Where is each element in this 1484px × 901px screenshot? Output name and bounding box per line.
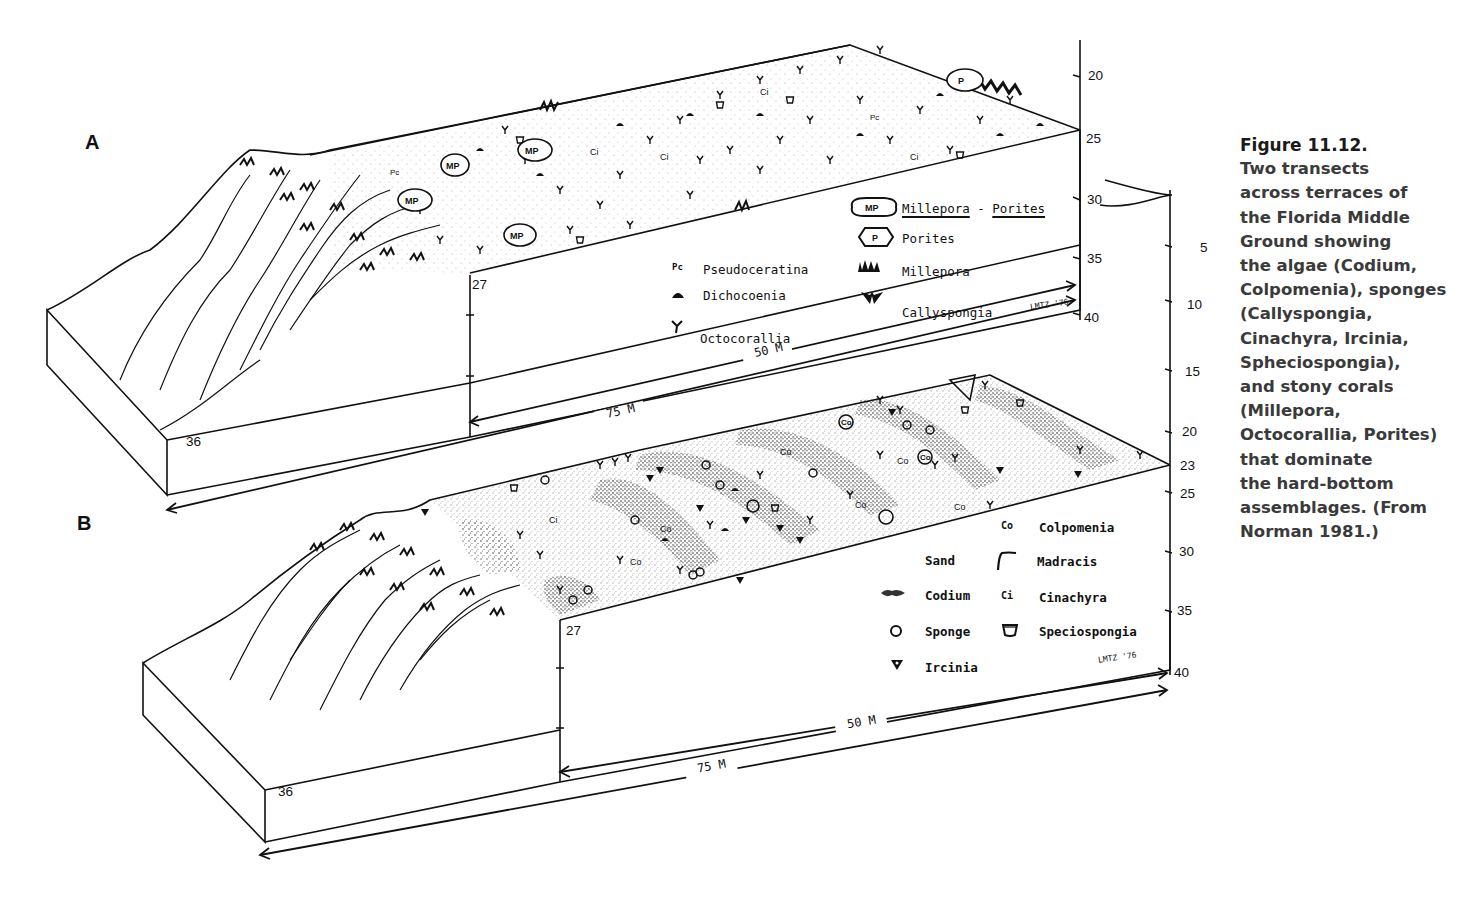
caption-line: the Florida Middle (1240, 206, 1480, 230)
panel-b-axis-5: 5 (1200, 240, 1208, 255)
caption-line: Colpomenia), sponges (1240, 278, 1480, 302)
caption-line: the hard-bottom (1240, 472, 1480, 496)
panel-a-axis-25: 25 (1086, 131, 1101, 146)
svg-text:Ci: Ci (549, 515, 558, 525)
svg-text:Co: Co (954, 502, 966, 512)
caption-line: assemblages. (From (1240, 496, 1480, 520)
panel-a-depth-27: 27 (472, 277, 487, 292)
svg-text:MP: MP (525, 146, 539, 156)
legend-sand: Sand (925, 553, 955, 568)
dichocoenia-icon (671, 290, 685, 300)
panel-a-axis-40: 40 (1084, 310, 1099, 325)
caption-line: Spheciospongia), (1240, 351, 1480, 375)
legend-porites: Porites (902, 231, 955, 246)
svg-text:P: P (872, 233, 878, 243)
svg-text:Pc: Pc (390, 168, 399, 177)
panel-a-axis-35: 35 (1087, 251, 1102, 266)
legend-speciospongia: Speciospongia (1039, 624, 1137, 639)
legend-separator: - (970, 201, 993, 216)
sponge-icon (889, 624, 903, 638)
colpomenia-symbol: Co (1001, 520, 1013, 531)
svg-text:MP: MP (446, 161, 460, 171)
legend-colpomenia: Colpomenia (1039, 520, 1114, 535)
caption-line: Octocorallia, Porites) (1240, 423, 1480, 447)
panel-b-axis-30: 30 (1179, 544, 1194, 559)
legend-madracis: Madracis (1037, 554, 1097, 569)
panel-b-axis-35: 35 (1177, 603, 1192, 618)
legend-millepora-porites: Millepora - Porites (902, 201, 1045, 216)
panel-b-axis-15: 15 (1185, 364, 1200, 379)
caption-line: (Callyspongia, (1240, 302, 1480, 326)
legend-dichocoenia: Dichocoenia (703, 288, 786, 303)
octocorallia-icon (670, 320, 684, 334)
panel-b-surface (430, 375, 1170, 620)
legend-octocorallia: Octocorallia (700, 331, 790, 346)
svg-text:Co: Co (855, 500, 867, 510)
speciospongia-icon (1001, 622, 1019, 638)
panel-b-depth-27: 27 (566, 623, 581, 638)
caption-title: Figure 11.12. (1240, 133, 1480, 157)
millepora-porites-icon: MP (848, 195, 900, 219)
panel-a-letter: A (85, 131, 99, 154)
caption-line: the algae (Codium, (1240, 254, 1480, 278)
panel-b-axis-10: 10 (1187, 297, 1202, 312)
madracis-icon (996, 549, 1018, 571)
svg-text:Ci: Ci (590, 147, 599, 157)
svg-text:Co: Co (841, 418, 852, 427)
svg-text:MP: MP (865, 203, 879, 213)
legend-cinachyra: Cinachyra (1039, 590, 1107, 605)
figure-stage: CiCi CiCi PcPc MP MP MP MP P (0, 0, 1484, 901)
cinachyra-symbol: Ci (1001, 590, 1013, 601)
caption-line: Norman 1981.) (1240, 520, 1480, 544)
legend-callyspongia: Callyspongia (902, 305, 992, 320)
ircinia-icon (890, 658, 904, 672)
panel-b-axis-40: 40 (1174, 665, 1189, 680)
panel-a-axis-30: 30 (1087, 192, 1102, 207)
legend-porites-a: Porites (992, 201, 1045, 216)
millepora-icon (857, 258, 881, 274)
panel-b-letter: B (77, 512, 91, 535)
figure-caption: Figure 11.12. Two transects across terra… (1240, 133, 1480, 544)
porites-icon: P (855, 225, 897, 249)
panel-a-depth-36: 36 (186, 434, 201, 449)
caption-line: that dominate (1240, 448, 1480, 472)
caption-line: across terraces of (1240, 181, 1480, 205)
caption-line: and stony corals (1240, 375, 1480, 399)
svg-text:Ci: Ci (760, 87, 769, 97)
legend-sponge: Sponge (925, 624, 970, 639)
callyspongia-icon (860, 290, 884, 306)
panel-b-axis-20: 20 (1182, 424, 1197, 439)
svg-text:MP: MP (405, 196, 419, 206)
panel-a-axis-20: 20 (1088, 68, 1103, 83)
pseudoceratina-symbol: Pc (672, 262, 683, 272)
svg-text:Co: Co (920, 453, 931, 462)
panel-b-axis-23: 23 (1180, 458, 1195, 473)
legend-ircinia: Ircinia (925, 660, 978, 675)
svg-text:Co: Co (660, 524, 672, 534)
caption-line: Two transects (1240, 157, 1480, 181)
caption-line: Ground showing (1240, 230, 1480, 254)
svg-text:Ci: Ci (910, 152, 919, 162)
codium-icon (880, 588, 906, 598)
svg-text:Co: Co (630, 557, 642, 567)
caption-line: (Millepora, (1240, 399, 1480, 423)
legend-pseudoceratina: Pseudoceratina (703, 262, 808, 277)
panel-b-axis-25: 25 (1180, 486, 1195, 501)
svg-text:Pc: Pc (870, 113, 879, 122)
legend-codium: Codium (925, 588, 970, 603)
svg-text:Co: Co (897, 456, 909, 466)
svg-text:P: P (958, 76, 964, 86)
svg-text:MP: MP (510, 231, 524, 241)
legend-millepora: Millepora (902, 264, 970, 279)
svg-text:Co: Co (780, 447, 792, 457)
legend-millepora-a: Millepora (902, 201, 970, 216)
svg-text:Ci: Ci (660, 152, 669, 162)
caption-line: Cinachyra, Ircinia, (1240, 327, 1480, 351)
panel-b-depth-36: 36 (278, 784, 293, 799)
